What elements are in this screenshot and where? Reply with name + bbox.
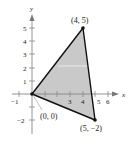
point-label-4-5: (4, 5) [71,16,89,25]
x-tick-label: −1 [11,98,19,106]
x-tick-label: 6 [106,98,110,106]
x-tick-label: 3 [68,98,72,106]
y-tick-label: 3 [23,51,27,59]
y-axis-label: y [29,5,34,13]
x-axis-arrow-icon [112,92,119,97]
x-tick-label: 5 [97,98,101,106]
point-label-5-neg2: (5, −2) [80,124,102,133]
y-tick-label: 1 [23,78,27,86]
triangle-region [32,28,95,120]
vertex-4-5 [81,26,85,30]
y-axis-arrow-icon [30,14,35,21]
y-tick-label: 4 [23,38,27,46]
vertex-5-neg2 [93,118,97,122]
y-tick-label: 5 [23,25,27,33]
coordinate-plot: x y −1 3 4 5 6 5 4 3 2 1 −2 (4, 5) (0, 0… [0,0,135,141]
y-tick-label: 2 [23,65,27,73]
x-axis-label: x [121,91,126,99]
x-tick-label: 4 [81,98,85,106]
y-axis [29,14,35,134]
point-label-origin: (0, 0) [40,112,58,121]
y-tick-label: −2 [17,117,25,125]
